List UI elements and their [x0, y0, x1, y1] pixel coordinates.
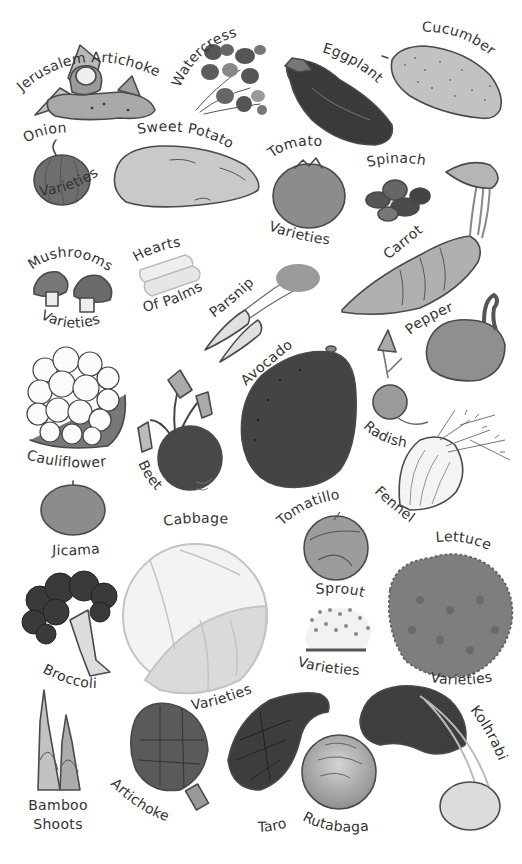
spinach-illustration: [366, 180, 430, 221]
vegetable-poster: Jerusalem Artichoke Watercress Eggplant …: [0, 0, 522, 864]
label-mushrooms: Mushrooms: [25, 244, 116, 274]
mushrooms-illustration: [34, 272, 112, 312]
label-lettuce: Lettuce: [435, 528, 494, 553]
label-tomato: Tomato: [264, 133, 323, 161]
label-onion: Onion: [20, 119, 67, 145]
label-radish: Radish: [361, 417, 409, 450]
fennel-illustration: [399, 410, 510, 510]
label-jicama: Jicama: [51, 540, 101, 558]
bamboo-shoots-illustration: [38, 690, 80, 790]
label-sprout-varieties: Varieties: [296, 653, 360, 678]
cauliflower-illustration: [27, 347, 125, 448]
sweet-potato-illustration: [114, 146, 258, 207]
label-rutabaga: Rutabaga: [301, 808, 370, 834]
tomato-illustration: [273, 158, 345, 228]
tomatillo-illustration: [304, 512, 368, 580]
radish-illustration: [373, 330, 428, 424]
broccoli-illustration: [22, 571, 117, 676]
jicama-illustration: [41, 481, 105, 535]
label-sprout: Sprout: [315, 580, 367, 600]
rutabaga-illustration: [302, 735, 376, 809]
artichoke-illustration: [131, 703, 209, 810]
label-spinach: Spinach: [365, 150, 427, 170]
label-cauliflower: Cauliflower: [25, 447, 107, 471]
lettuce-illustration: [389, 554, 512, 676]
sprout-illustration: [305, 608, 372, 650]
label-parsnip: Parsnip: [206, 274, 256, 320]
carrot-illustration: [342, 163, 498, 315]
label-cabbage: Cabbage: [162, 510, 229, 529]
cabbage-illustration: [123, 544, 267, 693]
label-taro: Taro: [256, 815, 288, 836]
label-shoots: Shoots: [33, 816, 82, 832]
cucumber-illustration: [382, 46, 501, 118]
label-bamboo: Bamboo: [28, 797, 88, 813]
